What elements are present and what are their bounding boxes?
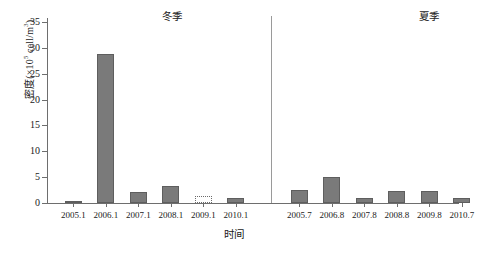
bar [421, 191, 438, 203]
y-tick [42, 74, 47, 75]
x-tick [462, 203, 463, 207]
x-tick-label: 2010.1 [214, 210, 258, 220]
x-tick-label: 2010.7 [440, 210, 479, 220]
y-tick [42, 125, 47, 126]
season-divider [271, 16, 272, 203]
y-tick [42, 22, 47, 23]
x-tick [364, 203, 365, 207]
bar [323, 177, 340, 203]
bar [130, 192, 147, 203]
y-tick-label: 25 [10, 69, 40, 79]
x-tick [429, 203, 430, 207]
bar [388, 191, 405, 203]
x-tick [332, 203, 333, 207]
x-tick [236, 203, 237, 207]
y-axis-line [47, 18, 48, 203]
y-tick [42, 177, 47, 178]
plot-area: 05101520253035 2005.12006.12007.12008.12… [47, 22, 459, 203]
y-tick-label: 35 [10, 17, 40, 27]
season-label-winter: 冬季 [142, 8, 202, 23]
y-tick [42, 48, 47, 49]
x-tick [138, 203, 139, 207]
bar [162, 186, 179, 203]
bar [97, 54, 114, 203]
x-tick [397, 203, 398, 207]
y-tick [42, 100, 47, 101]
y-tick-label: 15 [10, 120, 40, 130]
y-tick-label: 5 [10, 172, 40, 182]
bar [291, 190, 308, 203]
x-tick [203, 203, 204, 207]
x-tick [171, 203, 172, 207]
y-tick [42, 203, 47, 204]
season-label-summer: 夏季 [399, 8, 459, 23]
x-axis-title: 时间 [0, 226, 467, 241]
y-tick-label: 30 [10, 43, 40, 53]
y-tick-label: 20 [10, 95, 40, 105]
y-tick [42, 151, 47, 152]
y-tick-label: 10 [10, 146, 40, 156]
y-tick-label: 0 [10, 198, 40, 208]
x-tick [106, 203, 107, 207]
x-tick [299, 203, 300, 207]
bar [195, 196, 212, 203]
x-tick [73, 203, 74, 207]
